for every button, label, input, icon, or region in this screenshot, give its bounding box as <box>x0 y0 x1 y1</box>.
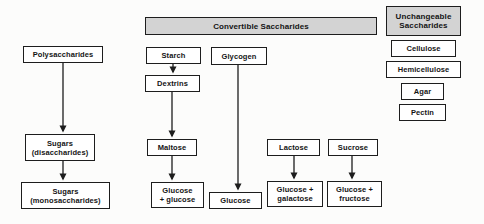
node-hemicellulose: Hemicellulose <box>386 61 461 78</box>
node-pectin: Pectin <box>399 104 446 121</box>
node-starch: Starch <box>146 47 201 64</box>
node-sucrose: Sucrose <box>328 139 378 156</box>
node-glucose-galactose: Glucose + galactose <box>267 181 323 207</box>
node-maltose: Maltose <box>147 139 197 156</box>
node-polysaccharides: Polysaccharides <box>23 46 103 63</box>
node-glycogen: Glycogen <box>211 47 267 65</box>
node-agar: Agar <box>401 83 444 100</box>
node-sugars-disaccharides: Sugars (disaccharides) <box>25 134 95 161</box>
node-sugars-monosaccharides: Sugars (monosaccharides) <box>21 182 110 209</box>
header-unchangeable-saccharides: Unchangeable Saccharides <box>386 6 461 36</box>
saccharides-flowchart: Polysaccharides Sugars (disaccharides) S… <box>0 0 484 224</box>
header-convertible-saccharides: Convertible Saccharides <box>145 17 377 35</box>
node-glucose-fructose: Glucose + fructose <box>327 181 382 207</box>
node-glucose: Glucose <box>209 192 262 209</box>
node-cellulose: Cellulose <box>391 40 456 57</box>
node-glucose-glucose: Glucose + glucose <box>151 182 204 208</box>
node-lactose: Lactose <box>267 139 320 156</box>
node-dextrins: Dextrins <box>145 75 200 92</box>
